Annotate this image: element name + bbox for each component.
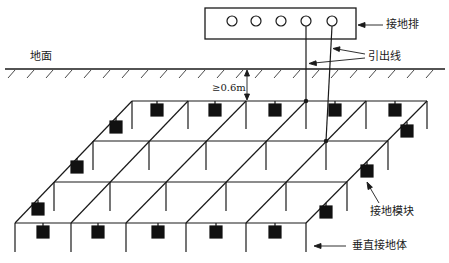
lead-wires <box>306 26 332 141</box>
ground-surface-label: 地面 <box>30 51 52 62</box>
grounding-grid-diagram <box>0 0 449 263</box>
lead-wire-label: 引出线 <box>368 51 401 62</box>
vertical-electrode-label: 垂直接地体 <box>352 240 407 251</box>
ground-hatching <box>8 70 433 78</box>
grounding-module-label: 接地模块 <box>370 206 414 217</box>
depth-label: ≥0.6m <box>212 83 246 93</box>
busbar-holes <box>227 16 337 26</box>
busbar-label: 接地排 <box>386 19 419 30</box>
grounding-modules <box>32 101 413 238</box>
